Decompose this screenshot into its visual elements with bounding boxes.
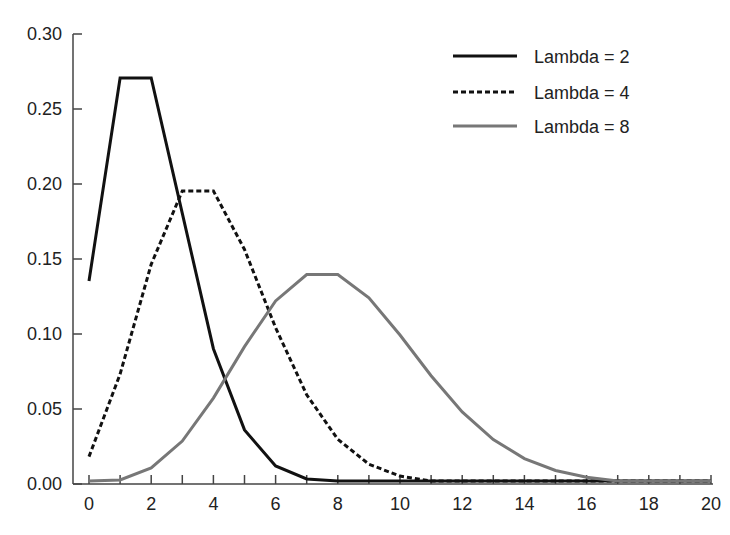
x-tick-label: 0 [84,494,94,514]
y-tick-label: 0.05 [27,399,62,419]
x-tick-label: 16 [577,494,597,514]
y-tick-label: 0.20 [27,174,62,194]
x-tick-label: 8 [333,494,343,514]
legend-label-1: Lambda = 2 [534,47,630,67]
y-tick-label: 0.15 [27,249,62,269]
legend-label-2: Lambda = 4 [534,83,630,103]
poisson-line-chart: 0.000.050.100.150.200.250.30024681012141… [0,0,730,535]
legend-label-3: Lambda = 8 [534,117,630,137]
series-line-1 [89,78,711,481]
y-tick-label: 0.25 [27,99,62,119]
legend: Lambda = 2Lambda = 4Lambda = 8 [453,47,630,137]
y-tick-label: 0.10 [27,324,62,344]
y-tick-label: 0.30 [27,24,62,44]
series-layer [89,78,711,481]
x-tick-label: 2 [146,494,156,514]
series-line-3 [89,275,711,481]
x-tick-label: 6 [271,494,281,514]
x-tick-label: 20 [701,494,721,514]
x-tick-label: 4 [208,494,218,514]
x-tick-label: 14 [514,494,534,514]
x-tick-label: 10 [390,494,410,514]
x-tick-label: 18 [639,494,659,514]
x-tick-label: 12 [452,494,472,514]
y-tick-label: 0.00 [27,474,62,494]
